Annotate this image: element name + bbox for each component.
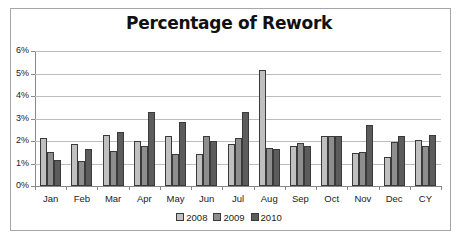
y-tick-label: 4% [7, 90, 29, 100]
x-tick-mark [66, 186, 67, 190]
bar-apr-2009 [141, 146, 148, 186]
bar-may-2010 [179, 122, 186, 186]
bar-jan-2009 [47, 152, 54, 186]
legend: 200820092010 [0, 212, 458, 223]
x-tick-mark [347, 186, 348, 190]
gridline [35, 51, 441, 52]
bar-oct-2008 [321, 136, 328, 186]
bar-nov-2009 [359, 152, 366, 186]
gridline [35, 119, 441, 120]
bar-apr-2008 [134, 141, 141, 186]
bar-aug-2010 [273, 149, 280, 186]
bar-cy-2008 [415, 140, 422, 186]
bar-jun-2009 [203, 136, 210, 186]
gridline [35, 74, 441, 75]
legend-label: 2008 [186, 212, 207, 223]
bar-oct-2010 [335, 136, 342, 186]
bar-cy-2010 [429, 135, 436, 186]
x-tick-mark [285, 186, 286, 190]
y-tick-label: 2% [7, 135, 29, 145]
x-tick-mark [222, 186, 223, 190]
bar-aug-2008 [259, 70, 266, 186]
y-tick-mark [31, 141, 35, 142]
bar-jul-2009 [235, 138, 242, 186]
y-tick-label: 3% [7, 113, 29, 123]
x-tick-mark [35, 186, 36, 190]
bar-nov-2008 [352, 153, 359, 186]
plot-area: 0%1%2%3%4%5%6%JanFebMarAprMayJunJulAugSe… [35, 51, 441, 186]
bar-jul-2010 [242, 112, 249, 186]
y-tick-mark [31, 51, 35, 52]
bar-sep-2010 [304, 146, 311, 186]
y-tick-mark [31, 74, 35, 75]
x-tick-label: May [160, 193, 191, 204]
x-tick-mark [379, 186, 380, 190]
x-tick-label: Jun [191, 193, 222, 204]
bar-feb-2008 [71, 144, 78, 186]
x-tick-label: Dec [379, 193, 410, 204]
x-tick-label: Jan [35, 193, 66, 204]
x-tick-mark [410, 186, 411, 190]
y-tick-mark [31, 119, 35, 120]
bar-dec-2010 [398, 136, 405, 186]
x-axis [35, 186, 441, 187]
bar-aug-2009 [266, 148, 273, 186]
bar-mar-2009 [110, 151, 117, 186]
x-tick-mark [160, 186, 161, 190]
x-tick-label: Oct [316, 193, 347, 204]
bar-oct-2009 [328, 136, 335, 186]
x-tick-mark [441, 186, 442, 190]
gridline [35, 96, 441, 97]
x-tick-label: Jul [222, 193, 253, 204]
x-tick-label: Mar [97, 193, 128, 204]
x-tick-label: Apr [129, 193, 160, 204]
bar-may-2009 [172, 154, 179, 186]
y-tick-mark [31, 164, 35, 165]
bar-may-2008 [165, 136, 172, 186]
bar-dec-2009 [391, 142, 398, 186]
legend-item-2008: 2008 [176, 212, 207, 223]
legend-item-2009: 2009 [213, 212, 244, 223]
x-tick-label: Feb [66, 193, 97, 204]
y-tick-label: 1% [7, 158, 29, 168]
legend-label: 2009 [223, 212, 244, 223]
x-tick-label: CY [410, 193, 441, 204]
bar-jan-2008 [40, 138, 47, 186]
bar-jan-2010 [54, 160, 61, 186]
bar-sep-2009 [297, 143, 304, 186]
bar-mar-2010 [117, 132, 124, 186]
x-tick-mark [254, 186, 255, 190]
chart-title: Percentage of Rework [0, 13, 458, 33]
legend-swatch-icon [176, 213, 184, 221]
legend-swatch-icon [213, 213, 221, 221]
x-tick-mark [97, 186, 98, 190]
x-tick-mark [191, 186, 192, 190]
y-tick-label: 0% [7, 180, 29, 190]
legend-swatch-icon [251, 213, 259, 221]
bar-jun-2010 [210, 141, 217, 186]
y-tick-label: 5% [7, 68, 29, 78]
bar-nov-2010 [366, 125, 373, 186]
y-tick-mark [31, 96, 35, 97]
legend-label: 2010 [261, 212, 282, 223]
bar-mar-2008 [103, 135, 110, 186]
bar-apr-2010 [148, 112, 155, 186]
bar-cy-2009 [422, 146, 429, 186]
x-tick-label: Aug [254, 193, 285, 204]
bar-dec-2008 [384, 157, 391, 186]
x-tick-mark [316, 186, 317, 190]
x-tick-label: Nov [347, 193, 378, 204]
bar-feb-2010 [85, 149, 92, 186]
bar-jun-2008 [196, 154, 203, 186]
y-tick-label: 6% [7, 45, 29, 55]
x-tick-mark [129, 186, 130, 190]
x-tick-label: Sep [285, 193, 316, 204]
bar-jul-2008 [228, 144, 235, 186]
legend-item-2010: 2010 [251, 212, 282, 223]
bar-sep-2008 [290, 146, 297, 186]
bar-feb-2009 [78, 161, 85, 186]
